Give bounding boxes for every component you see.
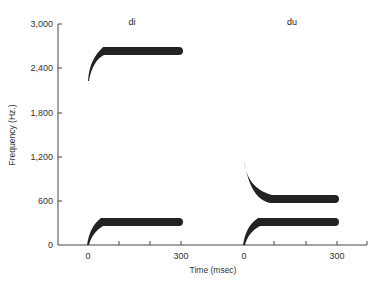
formant-f1-di: [87, 218, 183, 245]
x-ticks: [119, 241, 367, 245]
formant-f2-di: [88, 47, 183, 81]
x-axis-label: Time (msec): [190, 265, 237, 275]
y-ticks: [58, 24, 62, 201]
y-tick-labels: 3,000 2,400 1,800 1,200 600 0: [30, 19, 53, 250]
panel-du: [243, 160, 339, 245]
x-tick-label-left-300: 300: [173, 251, 188, 261]
panel-title-du: du: [287, 17, 297, 27]
y-tick-label: 600: [38, 196, 53, 206]
panel-title-di: di: [128, 17, 135, 27]
y-tick-label: 3,000: [30, 19, 53, 29]
x-tick-label-right-300: 300: [329, 251, 344, 261]
y-axis-label: Frequency (Hz.): [7, 104, 17, 165]
formant-f1-du: [243, 218, 339, 245]
y-tick-label: 1,800: [30, 108, 53, 118]
x-tick-label-right-0: 0: [241, 251, 246, 261]
x-tick-labels: 0 300 0 300: [85, 251, 344, 261]
y-tick-label: 1,200: [30, 152, 53, 162]
y-tick-label: 2,400: [30, 63, 53, 73]
panel-di: [87, 47, 183, 245]
formant-chart: 3,000 2,400 1,800 1,200 600 0 0 300 0 30…: [0, 0, 384, 287]
formant-f2-du: [244, 160, 339, 203]
x-tick-label-left-0: 0: [85, 251, 90, 261]
y-tick-label: 0: [48, 240, 53, 250]
